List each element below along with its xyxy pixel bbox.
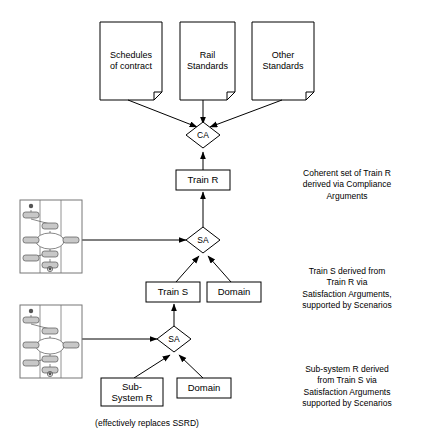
start-node [29,204,33,208]
diamond-sa-upper [186,227,220,253]
annotation-train-s: Train S derived from Train R via Satisfa… [277,266,417,312]
document-other-standards [252,22,314,100]
edge-other-to-ca [210,100,282,127]
diagram-canvas: Schedules of contract Rail Standards Oth… [0,0,421,448]
box-domain-upper [207,282,261,302]
edge-schedules-to-ca [128,100,197,127]
edge-sub-system-to-sa-lower [134,355,170,378]
annotation-compliance: Coherent set of Train R derived via Comp… [277,168,417,202]
box-train-s [146,282,200,302]
scenario-thumbnail-lower[interactable] [20,305,82,378]
diamond-sa-lower [157,326,191,352]
caption-effectively-replaces-ssrd: (effectively replaces SSRD) [62,418,232,428]
annotation-sub-system: Sub-system R derived from Train S via Sa… [277,364,417,410]
diamond-ca [186,122,220,148]
document-shapes [100,22,314,100]
edge-domain-upper-to-sa [208,256,231,282]
start-node [29,309,33,313]
edge-domain-lower-to-sa [179,355,203,378]
decision-diamonds [157,122,220,352]
box-train-r [176,170,230,190]
entity-boxes [101,170,261,406]
scenario-thumbnail-upper[interactable] [20,200,82,273]
edge-train-s-to-sa-upper [176,256,199,282]
box-sub-system-r [101,378,163,406]
box-domain-lower [177,378,231,398]
document-schedules-of-contract [100,22,162,100]
document-rail-standards [180,22,235,100]
